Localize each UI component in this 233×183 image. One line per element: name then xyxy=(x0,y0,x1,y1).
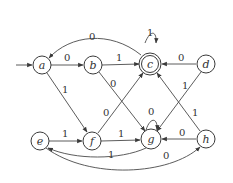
state-g: g xyxy=(141,129,161,149)
edge-label-c-a: 0 xyxy=(89,31,95,42)
edge-label-b-c: 1 xyxy=(116,52,122,63)
state-label-e: e xyxy=(37,135,44,148)
edge-label-c-c: 1 xyxy=(147,27,153,38)
edge-label-d-g: 1 xyxy=(182,80,188,91)
state-h: h xyxy=(197,130,215,148)
state-a: a xyxy=(33,56,51,74)
edge-label-a-b: 0 xyxy=(64,52,70,63)
edge-label-e-h: 0 xyxy=(163,150,169,161)
state-label-c: c xyxy=(147,58,153,71)
edge-g-e xyxy=(48,148,146,157)
edge-label-e-f: 1 xyxy=(62,128,68,139)
dfa-diagram: 0 1 1 0 1 0 0 1 1 0 0 1 0 1 0 1 a b c d xyxy=(0,0,233,183)
state-label-d: d xyxy=(202,58,209,71)
edge-f-c xyxy=(98,73,143,133)
state-label-b: b xyxy=(89,59,96,72)
edge-label-g-g: 0 xyxy=(148,106,154,117)
edge-b-c xyxy=(102,64,139,65)
edge-label-f-c: 0 xyxy=(103,107,109,118)
edge-label-a-f: 1 xyxy=(62,84,68,95)
edge-label-g-e: 1 xyxy=(108,149,114,160)
edge-label-f-g: 1 xyxy=(118,128,124,139)
state-label-g: g xyxy=(147,133,154,146)
edge-label-h-g: 0 xyxy=(179,127,185,138)
state-label-h: h xyxy=(202,133,209,146)
edge-a-f xyxy=(47,73,87,132)
state-c-accept: c xyxy=(139,53,161,75)
edge-label-h-c: 1 xyxy=(192,107,198,118)
edge-e-h xyxy=(46,147,200,170)
edge-label-d-c: 0 xyxy=(178,52,184,63)
edge-d-g xyxy=(157,72,201,131)
edge-label-b-g: 0 xyxy=(110,78,116,89)
state-label-a: a xyxy=(39,59,46,72)
state-d: d xyxy=(197,55,215,73)
state-b: b xyxy=(84,56,102,74)
state-e: e xyxy=(31,132,49,150)
edge-f-g xyxy=(101,140,140,141)
state-f: f xyxy=(83,132,101,150)
